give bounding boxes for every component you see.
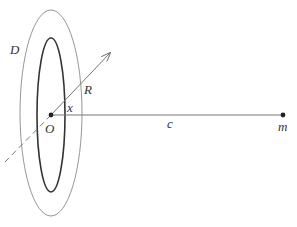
point-O [49, 113, 54, 118]
radius-arrow [51, 53, 110, 115]
label-m: m [278, 119, 287, 134]
label-O: O [45, 121, 55, 136]
point-m [281, 113, 286, 118]
label-D: D [9, 42, 20, 57]
label-R: R [83, 82, 92, 97]
label-c: c [167, 116, 173, 131]
label-x: x [66, 100, 73, 115]
diagram-canvas: D R x O c m [0, 0, 297, 227]
